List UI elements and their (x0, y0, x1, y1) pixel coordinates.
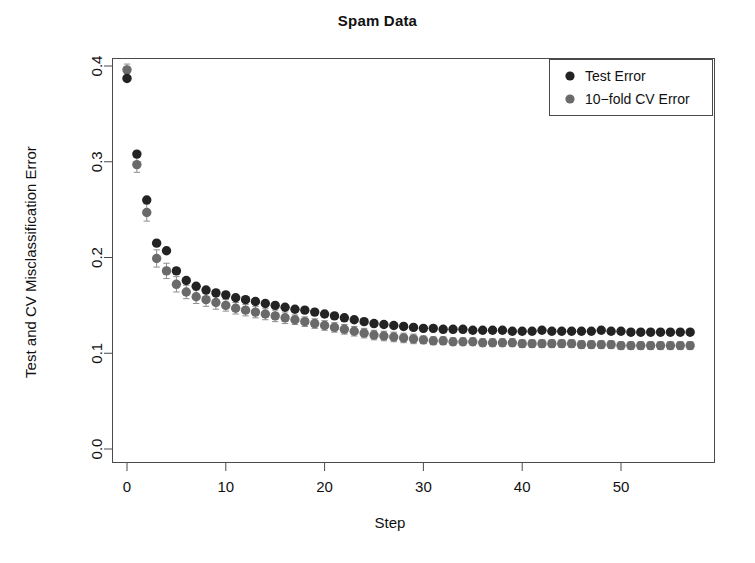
data-point-test-error (606, 327, 615, 336)
data-point-test-error (399, 322, 408, 331)
y-tick-label: 0.3 (88, 151, 105, 172)
data-point-test-error (587, 327, 596, 336)
data-point-test-error (340, 313, 349, 322)
data-point-test-error (142, 195, 151, 204)
plot-frame (113, 59, 715, 463)
data-point-cv-error (211, 298, 220, 307)
data-point-test-error (676, 327, 685, 336)
data-point-cv-error (488, 338, 497, 347)
data-point-test-error (271, 301, 280, 310)
data-point-test-error (685, 327, 694, 336)
data-point-cv-error (290, 315, 299, 324)
x-tick-label: 40 (514, 478, 531, 495)
data-point-cv-error (636, 341, 645, 350)
data-point-cv-error (300, 317, 309, 326)
data-point-cv-error (320, 321, 329, 330)
data-point-cv-error (399, 333, 408, 342)
data-point-cv-error (310, 319, 319, 328)
data-point-test-error (320, 309, 329, 318)
data-point-cv-error (280, 313, 289, 322)
data-point-cv-error (438, 336, 447, 345)
data-point-cv-error (557, 339, 566, 348)
data-point-test-error (508, 327, 517, 336)
data-point-test-error (419, 324, 428, 333)
data-point-test-error (241, 295, 250, 304)
data-point-cv-error (340, 325, 349, 334)
legend-label-test-error: Test Error (585, 68, 646, 84)
data-point-cv-error (676, 341, 685, 350)
data-point-cv-error (241, 305, 250, 314)
data-point-cv-error (666, 341, 675, 350)
data-point-cv-error (389, 332, 398, 341)
data-point-cv-error (429, 336, 438, 345)
data-point-test-error (458, 325, 467, 334)
data-point-test-error (191, 282, 200, 291)
legend-label-cv-error: 10−fold CV Error (585, 91, 690, 107)
legend-marker-cv-error (565, 94, 574, 103)
data-point-test-error (409, 323, 418, 332)
y-tick-label: 0.1 (88, 343, 105, 364)
data-point-test-error (616, 327, 625, 336)
scatter-plot: 0.00.10.20.30.4 01020304050 Step Test an… (0, 0, 755, 563)
data-point-cv-error (448, 337, 457, 346)
y-axis-title: Test and CV Misclassification Error (22, 146, 39, 378)
data-point-test-error (498, 326, 507, 335)
data-point-cv-error (369, 330, 378, 339)
y-tick-label: 0.2 (88, 247, 105, 268)
data-point-cv-error (359, 328, 368, 337)
data-point-test-error (577, 327, 586, 336)
data-point-test-error (182, 276, 191, 285)
data-point-test-error (261, 299, 270, 308)
data-point-test-error (350, 315, 359, 324)
data-point-cv-error (379, 331, 388, 340)
data-point-test-error (626, 327, 635, 336)
x-tick-label: 20 (316, 478, 333, 495)
data-point-cv-error (646, 341, 655, 350)
data-point-cv-error (231, 304, 240, 313)
data-point-test-error (201, 285, 210, 294)
data-point-cv-error (251, 307, 260, 316)
data-point-test-error (379, 320, 388, 329)
data-point-cv-error (508, 338, 517, 347)
y-tick-label: 0.0 (88, 439, 105, 460)
data-point-cv-error (537, 339, 546, 348)
data-point-cv-error (419, 335, 428, 344)
data-point-cv-error (162, 266, 171, 275)
data-point-test-error (518, 327, 527, 336)
data-point-test-error (567, 327, 576, 336)
data-point-cv-error (656, 341, 665, 350)
data-point-test-error (231, 293, 240, 302)
x-tick-label: 50 (613, 478, 630, 495)
data-point-cv-error (616, 341, 625, 350)
data-point-cv-error (527, 339, 536, 348)
x-tick-label: 0 (123, 478, 131, 495)
data-point-test-error (310, 307, 319, 316)
data-point-cv-error (478, 338, 487, 347)
data-point-cv-error (191, 292, 200, 301)
data-point-cv-error (547, 339, 556, 348)
x-axis: 01020304050 (123, 463, 630, 495)
data-point-test-error (172, 266, 181, 275)
data-point-cv-error (152, 254, 161, 263)
data-point-cv-error (142, 208, 151, 217)
data-point-test-error (429, 324, 438, 333)
data-point-test-error (478, 326, 487, 335)
data-point-cv-error (626, 341, 635, 350)
data-point-test-error (557, 327, 566, 336)
data-point-cv-error (597, 340, 606, 349)
data-point-cv-error (468, 337, 477, 346)
data-point-cv-error (122, 65, 131, 74)
x-axis-title: Step (375, 514, 406, 531)
data-point-test-error (547, 327, 556, 336)
y-axis: 0.00.10.20.30.4 (88, 56, 113, 460)
data-point-test-error (162, 246, 171, 255)
data-point-cv-error (172, 280, 181, 289)
data-point-cv-error (685, 341, 694, 350)
x-tick-label: 30 (415, 478, 432, 495)
data-point-test-error (251, 297, 260, 306)
data-point-cv-error (201, 295, 210, 304)
data-point-cv-error (567, 339, 576, 348)
data-point-test-error (656, 327, 665, 336)
data-point-test-error (597, 326, 606, 335)
data-point-test-error (280, 303, 289, 312)
